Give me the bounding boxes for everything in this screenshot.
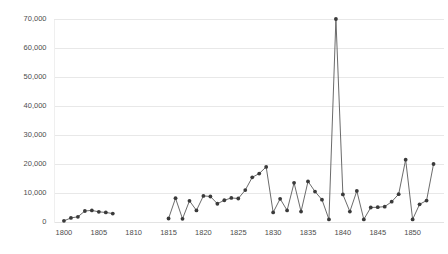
- data-point: [306, 180, 310, 184]
- x-tick-label-1850: 1850: [404, 228, 421, 237]
- line-chart: 010,00020,00030,00040,00050,00060,00070,…: [0, 0, 448, 254]
- x-tick-label-1830: 1830: [265, 228, 282, 237]
- x-axis-tick-labels: 1800180518101815182018251830183518401845…: [56, 228, 421, 237]
- data-point: [188, 199, 192, 203]
- data-point: [229, 196, 233, 200]
- x-tick-label-1835: 1835: [300, 228, 317, 237]
- gridlines: [54, 20, 445, 223]
- data-point: [250, 175, 254, 179]
- data-point: [111, 212, 115, 216]
- data-series: [62, 17, 435, 223]
- data-point: [299, 210, 303, 214]
- data-point: [404, 158, 408, 162]
- data-point: [264, 165, 268, 169]
- data-point: [285, 209, 289, 213]
- y-tick-label-40000: 40,000: [24, 101, 47, 110]
- x-tick-label-1840: 1840: [335, 228, 352, 237]
- data-point: [418, 202, 422, 206]
- series-line-segment-2: [169, 19, 434, 219]
- data-point: [278, 197, 282, 201]
- data-point: [355, 189, 359, 193]
- data-point: [376, 205, 380, 209]
- data-point: [167, 217, 171, 221]
- data-point: [104, 211, 108, 215]
- y-tick-label-70000: 70,000: [24, 14, 47, 23]
- x-tick-label-1825: 1825: [230, 228, 247, 237]
- data-point: [341, 193, 345, 197]
- data-point: [257, 172, 261, 176]
- y-tick-label-50000: 50,000: [24, 72, 47, 81]
- data-point: [83, 209, 87, 213]
- x-tick-label-1805: 1805: [90, 228, 107, 237]
- data-point: [69, 216, 73, 220]
- y-tick-label-0: 0: [42, 217, 46, 226]
- y-tick-label-20000: 20,000: [24, 159, 47, 168]
- data-point: [313, 190, 317, 194]
- data-point: [202, 194, 206, 198]
- data-point: [411, 217, 415, 221]
- data-point: [181, 217, 185, 221]
- chart-canvas: 010,00020,00030,00040,00050,00060,00070,…: [0, 0, 448, 254]
- data-point: [432, 162, 436, 166]
- data-point: [327, 217, 331, 221]
- y-axis-tick-labels: 010,00020,00030,00040,00050,00060,00070,…: [24, 14, 47, 226]
- data-point: [383, 205, 387, 209]
- data-point: [348, 210, 352, 214]
- data-point: [209, 195, 213, 199]
- y-tick-label-60000: 60,000: [24, 43, 47, 52]
- data-point: [425, 199, 429, 203]
- data-point: [236, 197, 240, 201]
- x-tick-label-1845: 1845: [369, 228, 386, 237]
- x-tick-label-1810: 1810: [125, 228, 142, 237]
- data-point: [76, 215, 80, 219]
- data-point: [174, 196, 178, 200]
- data-point: [334, 17, 338, 21]
- data-point: [390, 200, 394, 204]
- data-point: [222, 198, 226, 202]
- data-point: [195, 209, 199, 213]
- x-tick-label-1815: 1815: [160, 228, 177, 237]
- x-tick-label-1800: 1800: [56, 228, 73, 237]
- data-point: [362, 217, 366, 221]
- data-point: [90, 209, 94, 213]
- data-point: [369, 206, 373, 210]
- data-point: [243, 188, 247, 192]
- data-point: [62, 219, 66, 223]
- data-point: [397, 192, 401, 196]
- data-point: [292, 181, 296, 185]
- y-tick-label-10000: 10,000: [24, 188, 47, 197]
- y-tick-label-30000: 30,000: [24, 130, 47, 139]
- data-point: [97, 210, 101, 214]
- data-point: [215, 202, 219, 206]
- data-point: [271, 211, 275, 215]
- data-point: [320, 198, 324, 202]
- x-tick-label-1820: 1820: [195, 228, 212, 237]
